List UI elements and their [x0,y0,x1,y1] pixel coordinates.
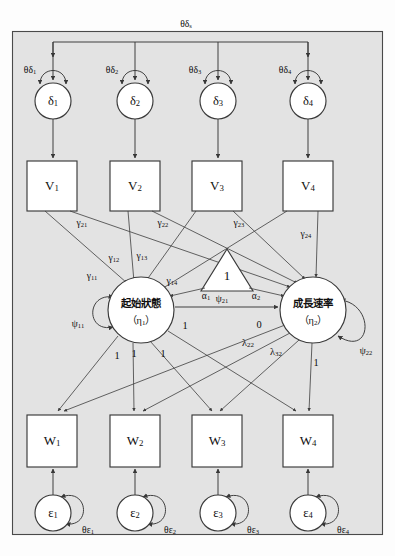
param-loading-eta1-w1: 1 [114,350,119,361]
node-eta-1-label-cjk: 起始狀態 [120,297,162,309]
param-loading-eta1-w2: 1 [131,348,136,359]
param-theta-delta-s: θδs [180,18,192,29]
param-loading-eta1-w3: 1 [160,348,165,359]
node-eta-2[interactable] [280,277,346,343]
node-eta-1[interactable] [108,277,174,343]
sem-path-diagram: θδs θδ1 θδ2 θδ3 θδ4 δ1 δ2 δ3 δ4 V1 V2 V3 [0,0,395,556]
node-eta-2-label-cjk: 成長速率 [293,297,334,309]
sem-diagram-root: θδs θδ1 θδ2 θδ3 θδ4 δ1 δ2 δ3 δ4 V1 V2 V3 [0,0,395,556]
node-constant-label: 1 [224,268,231,283]
param-loading-eta2-fixed-zero: 0 [256,319,261,330]
node-eta-2-label-symbol: （η2） [299,315,328,326]
node-eta-1-label-symbol: （η1） [127,315,156,326]
param-loading-eta2-w4: 1 [313,357,318,368]
param-loading-eta1-w4: 1 [182,320,187,331]
